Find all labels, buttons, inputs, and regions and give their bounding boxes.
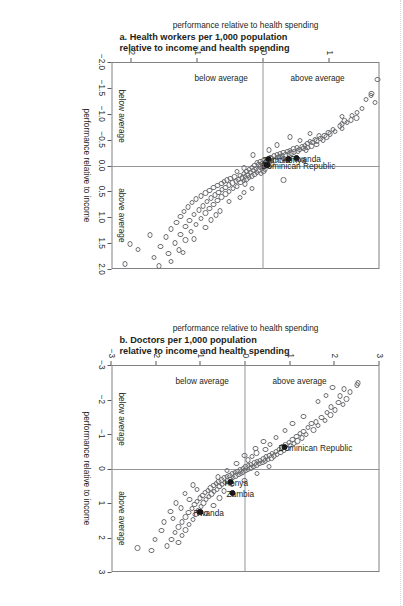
panel-title: a. Health workers per 1,000 population	[119, 32, 287, 44]
data-point	[163, 234, 168, 239]
y-axis-tick	[289, 361, 290, 365]
data-point	[337, 393, 342, 398]
data-point	[241, 453, 246, 458]
data-point	[245, 457, 250, 462]
data-point	[374, 77, 379, 82]
data-point	[332, 129, 337, 134]
x-axis-tick	[107, 114, 111, 115]
y-axis-tick	[196, 58, 197, 62]
data-point	[177, 214, 182, 219]
y-axis-tick	[130, 58, 131, 62]
data-point	[164, 543, 169, 548]
x-axis-tick	[107, 434, 111, 435]
chart-panel-a: −2.0−1.5−1.0−0.50.00.51.01.52.010−1−2per…	[0, 0, 403, 303]
data-point	[157, 244, 162, 249]
data-point	[303, 147, 308, 152]
data-point	[216, 495, 221, 500]
data-point	[372, 100, 377, 105]
data-point	[343, 396, 348, 401]
data-point	[198, 216, 203, 221]
data-point	[224, 468, 229, 473]
data-point	[307, 131, 312, 136]
quadrant-label-x-above: above average	[116, 491, 125, 545]
x-axis-tick-label: 2	[96, 535, 105, 540]
data-point	[237, 195, 242, 200]
y-axis-tick-label: 3	[375, 353, 384, 358]
quadrant-label-y-above: above average	[272, 377, 326, 386]
data-point	[202, 210, 207, 215]
y-axis-tick	[244, 361, 245, 365]
x-axis-tick-label: −2.0	[96, 54, 105, 70]
x-axis-tick	[107, 243, 111, 244]
data-point	[172, 240, 177, 245]
data-point	[158, 528, 163, 533]
data-point	[280, 177, 285, 182]
y-axis-tick	[110, 361, 111, 365]
x-axis-tick-label: 1	[96, 501, 105, 506]
x-axis-tick-label: 0.5	[96, 186, 105, 197]
data-point	[213, 212, 218, 217]
data-point-label: Kenya	[224, 478, 248, 488]
x-axis-tick-label: 3	[96, 570, 105, 575]
data-point	[347, 389, 352, 394]
data-point	[194, 487, 199, 492]
data-point	[122, 261, 127, 266]
chart-panel-b: −3−2−101233210−1−2−3performance relative…	[0, 303, 403, 606]
data-point	[266, 147, 271, 152]
x-axis-tick-label: 2.0	[96, 263, 105, 274]
data-point	[182, 224, 187, 229]
data-point	[173, 500, 178, 505]
data-point-label: Dominican Republic	[261, 161, 335, 171]
data-point	[127, 241, 132, 246]
data-point	[252, 446, 257, 451]
data-point	[168, 226, 173, 231]
x-axis-tick-label: 1.0	[96, 212, 105, 223]
panel-title: relative to income and health spending	[119, 346, 289, 358]
data-point	[274, 142, 279, 147]
data-point	[241, 165, 246, 170]
data-point	[190, 482, 195, 487]
data-point	[186, 218, 191, 223]
data-point	[267, 442, 272, 447]
data-point	[178, 505, 183, 510]
x-axis-tick-label: 1.5	[96, 237, 105, 248]
data-point	[354, 382, 359, 387]
x-axis-tick-label: −3	[96, 360, 105, 369]
data-point	[353, 115, 358, 120]
x-axis-tick	[107, 503, 111, 504]
data-point	[152, 537, 157, 542]
data-point	[341, 386, 346, 391]
data-point	[241, 190, 246, 195]
data-point	[242, 181, 247, 186]
data-point	[310, 427, 315, 432]
data-point	[327, 412, 332, 417]
data-point	[208, 217, 213, 222]
quadrant-label-y-above: above average	[290, 74, 344, 83]
data-point	[322, 418, 327, 423]
data-point	[344, 120, 349, 125]
quadrant-label-x-above: above average	[116, 188, 125, 242]
x-axis-tick	[107, 365, 111, 366]
x-axis-tick-label: −1	[96, 429, 105, 438]
x-axis-tick	[107, 469, 111, 470]
data-point	[196, 207, 201, 212]
y-axis-tick	[262, 58, 263, 62]
y-axis-title: performance relative to health spending	[172, 20, 318, 30]
data-point	[250, 152, 255, 157]
data-point	[363, 97, 368, 102]
data-point	[167, 509, 172, 514]
x-axis-tick	[107, 191, 111, 192]
x-axis-tick-label: −1.5	[96, 80, 105, 96]
x-axis-tick	[107, 572, 111, 573]
x-axis-tick-label: 0	[96, 466, 105, 471]
data-point	[161, 519, 166, 524]
y-axis-title: performance relative to health spending	[172, 323, 318, 333]
y-axis-tick	[333, 361, 334, 365]
x-axis-tick-label: −2	[96, 395, 105, 404]
data-point	[149, 548, 154, 553]
data-point	[135, 247, 140, 252]
data-point	[323, 393, 328, 398]
data-point	[202, 225, 207, 230]
data-point	[170, 516, 175, 521]
page-edge-rule	[400, 0, 401, 606]
